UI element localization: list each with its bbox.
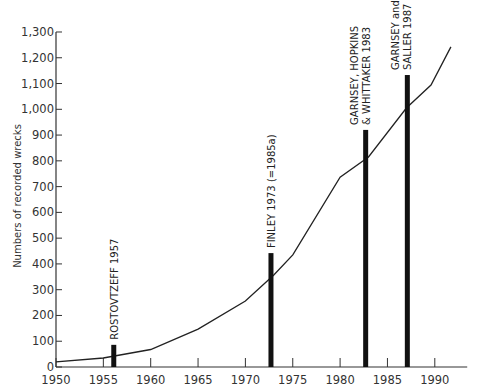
study-marker-bar (268, 253, 273, 367)
x-tick-label: 1960 (136, 373, 165, 387)
wreck-count-chart: 01002003004005006007008009001,0001,1001,… (0, 0, 477, 392)
study-label: ROSTOVTZEFF 1957 (109, 239, 120, 340)
y-tick-label: 500 (32, 231, 54, 245)
y-tick-label: 1,000 (21, 102, 54, 116)
x-tick-label: 1950 (41, 373, 70, 387)
x-tick-label: 1955 (89, 373, 118, 387)
study-label: SALLER 1987 (402, 4, 413, 70)
annotations: ROSTOVTZEFF 1957FINLEY 1973 (=1985a)GARN… (109, 0, 414, 367)
study-label: GARNSEY and (390, 0, 401, 70)
y-axis-title: Numbers of recorded wrecks (12, 124, 23, 268)
study-marker-bar (363, 130, 368, 367)
y-tick-label: 1,200 (21, 51, 54, 65)
y-tick-label: 800 (32, 154, 54, 168)
y-tick-label: 900 (32, 128, 54, 142)
y-tick-label: 1,300 (21, 25, 54, 39)
x-tick-label: 1985 (373, 373, 402, 387)
x-axis: 195019551960196519701975198019851990 (41, 358, 467, 387)
y-tick-label: 1,100 (21, 77, 54, 91)
x-tick-label: 1970 (231, 373, 260, 387)
study-label: & WHITTAKER 1983 (361, 27, 372, 125)
study-marker-bar (111, 345, 116, 367)
y-tick-label: 300 (32, 283, 54, 297)
y-tick-label: 0 (47, 360, 54, 374)
study-label: FINLEY 1973 (=1985a) (266, 134, 277, 248)
y-tick-label: 100 (32, 334, 54, 348)
y-tick-label: 700 (32, 180, 54, 194)
y-tick-label: 200 (32, 308, 54, 322)
study-marker-bar (405, 75, 410, 367)
x-tick-label: 1975 (278, 373, 307, 387)
y-tick-label: 400 (32, 257, 54, 271)
y-tick-label: 600 (32, 205, 54, 219)
x-tick-label: 1990 (420, 373, 449, 387)
x-tick-label: 1965 (183, 373, 212, 387)
y-axis: 01002003004005006007008009001,0001,1001,… (21, 25, 62, 374)
study-label: GARNSEY, HOPKINS (349, 26, 360, 125)
x-tick-label: 1980 (325, 373, 354, 387)
